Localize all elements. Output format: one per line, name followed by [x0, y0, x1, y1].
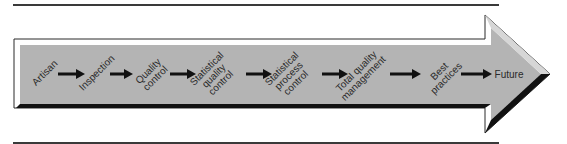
right-arrow-icon [58, 69, 85, 79]
right-arrow-icon [110, 69, 133, 79]
stage-label: Future [495, 70, 524, 80]
right-arrow-icon [390, 69, 421, 79]
right-arrow-icon [461, 69, 492, 79]
stage-label-line: Future [495, 70, 524, 80]
